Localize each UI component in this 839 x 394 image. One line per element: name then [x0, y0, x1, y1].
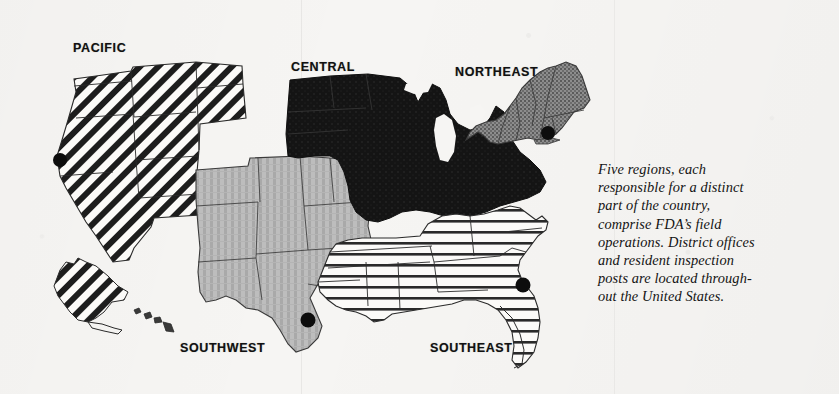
marker-northeast-office[interactable]	[541, 126, 555, 140]
marker-pacific-office[interactable]	[53, 153, 67, 167]
figure-caption: Five regions, each responsible for a dis…	[598, 160, 813, 306]
marker-southeast-office[interactable]	[516, 278, 531, 293]
caption-line-7: posts are located through-	[598, 269, 813, 287]
label-central: CENTRAL	[291, 60, 355, 74]
caption-line-2: responsible for a distinct	[598, 178, 813, 196]
lake-huron-void	[470, 104, 486, 122]
caption-line-8: out the United States.	[598, 287, 813, 305]
alaska-aleutian-tail	[88, 322, 122, 334]
label-southeast: SOUTHEAST	[430, 341, 513, 355]
caption-line-4: comprise FDA’s field	[598, 215, 813, 233]
label-pacific: PACIFIC	[73, 41, 126, 55]
marker-southwest-office[interactable]	[301, 313, 316, 328]
caption-line-3: part of the country,	[598, 196, 813, 214]
label-northeast: NORTHEAST	[455, 65, 538, 79]
caption-line-5: operations. District offices	[598, 233, 813, 251]
alaska-shape	[54, 258, 128, 322]
figure-map-fda-regions: PACIFIC CENTRAL NORTHEAST SOUTHWEST SOUT…	[0, 0, 839, 394]
label-southwest: SOUTHWEST	[180, 341, 265, 355]
caption-line-6: and resident inspection	[598, 251, 813, 269]
hawaii-shape	[134, 308, 174, 332]
caption-line-1: Five regions, each	[598, 160, 813, 178]
